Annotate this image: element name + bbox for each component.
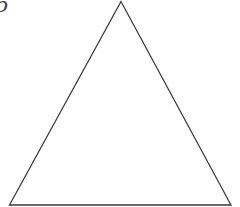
triangle-canvas	[0, 0, 240, 207]
triangle-figure: 6	[0, 0, 240, 207]
triangle-shape	[10, 2, 232, 206]
